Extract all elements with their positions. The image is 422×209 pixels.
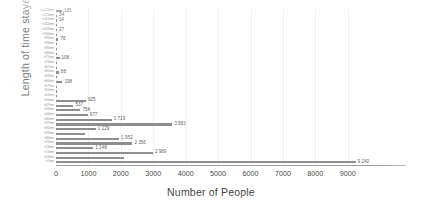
- bar: [56, 119, 112, 121]
- bar-value-label: 88: [59, 69, 66, 75]
- y-axis-title: Length of time stayed: [19, 0, 31, 109]
- bar: [56, 147, 93, 149]
- x-tick-label: 0: [54, 169, 58, 178]
- bar-value-label: 198: [62, 79, 72, 85]
- x-tick-label: 5000: [210, 169, 226, 178]
- bar-value-label: 14: [57, 17, 64, 23]
- bar-value-label: 977: [88, 112, 98, 118]
- bar: [56, 90, 57, 92]
- x-tick-label: 9000: [340, 169, 356, 178]
- plot-area: >=120mn185<120mn34<115mn14<110mn<105mn27…: [56, 9, 364, 165]
- bar: [56, 95, 57, 97]
- x-axis-title: Number of People: [0, 186, 422, 198]
- bar-value-label: 76: [58, 36, 65, 42]
- bar-value-label: 1 952: [119, 135, 133, 141]
- bar: [56, 86, 57, 88]
- x-tick-label: 8000: [307, 169, 323, 178]
- bar: [56, 43, 57, 45]
- x-axis-line: [56, 165, 406, 166]
- x-tick-label: 6000: [243, 169, 259, 178]
- bar: [56, 53, 57, 55]
- bar-value-label: 925: [86, 97, 96, 103]
- bar: [56, 109, 80, 111]
- bar: [56, 114, 88, 116]
- bar-chart: Length of time stayed >=120mn185<120mn34…: [0, 0, 422, 209]
- bar: [56, 48, 57, 50]
- bar-value-label: 108: [60, 55, 70, 61]
- x-tick-label: 2000: [113, 169, 129, 178]
- bar: [56, 161, 356, 163]
- x-tick-label: 7000: [275, 169, 291, 178]
- x-tick-label: 1000: [80, 169, 96, 178]
- bar: [56, 62, 57, 64]
- category-label: <5mn: [46, 159, 54, 164]
- bar: [56, 138, 119, 140]
- bar: [56, 157, 124, 159]
- bar: [56, 133, 85, 135]
- bar-value-label: 1 229: [96, 126, 110, 132]
- bar: [56, 105, 73, 107]
- bar-value-label: 3 583: [172, 121, 186, 127]
- bar-value-label: 1 148: [93, 145, 107, 151]
- x-tick-label: 4000: [178, 169, 194, 178]
- bar: [56, 152, 153, 154]
- bar-value-label: 2 989: [153, 149, 167, 155]
- bar-value-label: 9 240: [356, 159, 370, 165]
- bar-value-label: 1 719: [112, 116, 126, 122]
- x-axis-tick-labels: 0100020003000400050006000700080009000: [56, 167, 364, 181]
- bar: [56, 123, 172, 125]
- bar-value-label: 27: [57, 27, 64, 33]
- bar-value-label: 2 356: [132, 140, 146, 146]
- x-tick-label: 3000: [145, 169, 161, 178]
- bar: [56, 128, 96, 130]
- bar: [56, 67, 57, 69]
- bar: [56, 76, 57, 78]
- bar: [56, 34, 57, 36]
